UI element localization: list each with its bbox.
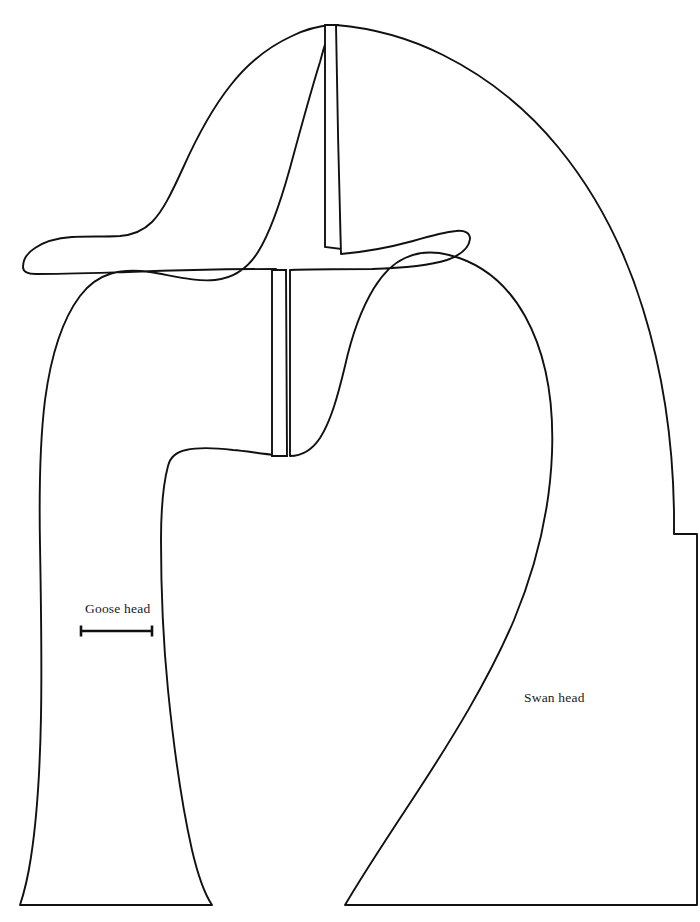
pattern-figure: Goose head Swan head (0, 0, 700, 922)
swan-head-label: Swan head (524, 690, 585, 705)
swan-head-slit (272, 270, 287, 456)
goose-head-outline (20, 25, 332, 905)
swan-head-outline (290, 25, 697, 905)
template-drawing: Goose head Swan head (0, 0, 700, 922)
goose-head-label: Goose head (85, 601, 150, 616)
